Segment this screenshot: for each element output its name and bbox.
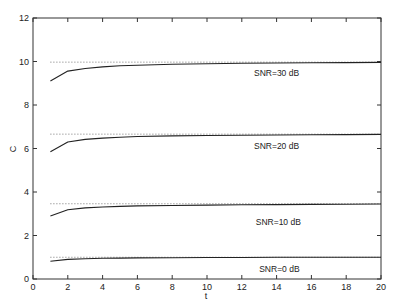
- series-curve: [50, 62, 381, 81]
- plot-area: [33, 18, 381, 279]
- x-axis-label: t: [205, 291, 208, 301]
- x-tick-label: 0: [30, 282, 35, 292]
- capacity-vs-t-chart: 02468101214161820024681012 SNR=30 dBSNR=…: [0, 0, 398, 308]
- y-tick-label: 12: [19, 13, 29, 23]
- series-curve: [50, 257, 381, 261]
- x-tick-label: 14: [272, 282, 282, 292]
- y-tick-label: 4: [24, 187, 29, 197]
- y-tick-label: 6: [24, 144, 29, 154]
- axis-ticks: 02468101214161820024681012: [19, 13, 386, 292]
- series-label: SNR=0 dB: [259, 264, 300, 274]
- x-tick-label: 12: [237, 282, 247, 292]
- y-tick-label: 8: [24, 100, 29, 110]
- x-tick-label: 20: [376, 282, 386, 292]
- series-labels: SNR=30 dBSNR=20 dBSNR=10 dBSNR=0 dB: [254, 68, 301, 274]
- y-tick-label: 10: [19, 57, 29, 67]
- series-label: SNR=10 dB: [256, 217, 301, 227]
- series-label: SNR=30 dB: [254, 68, 299, 78]
- x-tick-label: 2: [65, 282, 70, 292]
- x-tick-label: 4: [100, 282, 105, 292]
- axes-box: [33, 18, 381, 279]
- x-tick-label: 18: [341, 282, 351, 292]
- x-tick-label: 16: [306, 282, 316, 292]
- y-tick-label: 0: [24, 274, 29, 284]
- y-axis-label: C: [8, 145, 18, 152]
- series-label: SNR=20 dB: [254, 141, 299, 151]
- series-curves: [50, 62, 381, 261]
- series-curve: [50, 204, 381, 216]
- y-tick-label: 2: [24, 231, 29, 241]
- x-tick-label: 8: [170, 282, 175, 292]
- x-tick-label: 6: [135, 282, 140, 292]
- asymptote-lines: [50, 62, 381, 257]
- series-curve: [50, 134, 381, 151]
